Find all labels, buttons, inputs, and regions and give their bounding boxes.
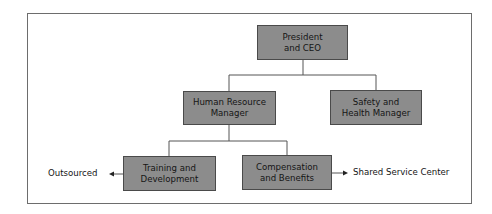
node-hr-manager: Human ResourceManager xyxy=(183,91,276,125)
node-line: and Benefits xyxy=(256,173,318,184)
node-line: Safety and xyxy=(342,97,411,108)
node-line: Compensation xyxy=(256,162,318,173)
node-line: Human Resource xyxy=(193,97,266,108)
node-line: and CEO xyxy=(282,43,322,54)
node-safety-health-manager: Safety andHealth Manager xyxy=(330,90,422,125)
label-shared-service-center: Shared Service Center xyxy=(353,167,449,177)
node-line: Training and xyxy=(141,163,199,174)
label-outsourced: Outsourced xyxy=(48,168,98,178)
arrow-right-icon xyxy=(343,171,348,176)
node-line: Health Manager xyxy=(342,108,411,119)
node-compensation-benefits: Compensationand Benefits xyxy=(242,155,332,190)
arrow-left-icon xyxy=(109,172,114,177)
node-line: Development xyxy=(141,174,199,185)
node-president-ceo: Presidentand CEO xyxy=(257,25,348,60)
node-line: President xyxy=(282,32,322,43)
node-training-development: Training andDevelopment xyxy=(123,156,216,191)
node-line: Manager xyxy=(193,108,266,119)
